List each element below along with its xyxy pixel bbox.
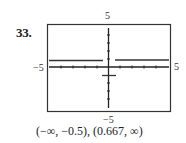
solution-intervals-caption: (−∞, −0.5), (0.667, ∞) [36,125,186,138]
graph-window [0,0,186,143]
y-max-label: 5 [105,11,110,21]
y-axis [107,28,110,108]
x-min-label: −5 [33,63,44,73]
x-max-label: 5 [174,62,179,72]
